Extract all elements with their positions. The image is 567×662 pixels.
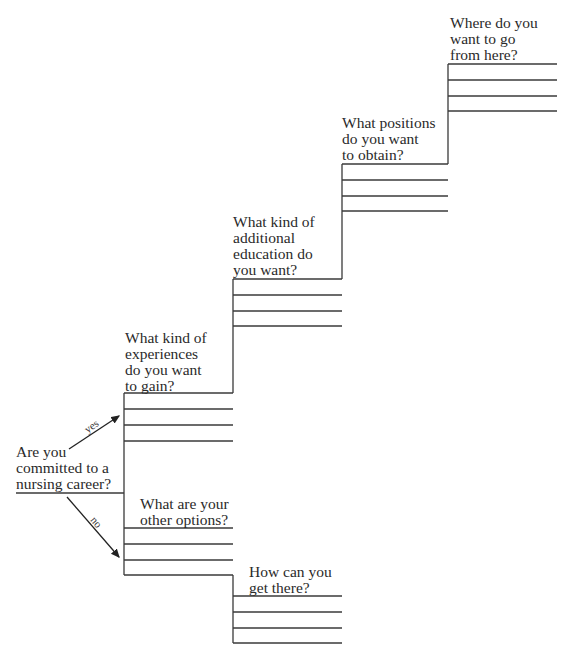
yes-step-3-question: What positions do you want to obtain? [342,115,435,163]
start-question: Are you committed to a nursing career? [16,444,111,492]
yes-step-4-question: Where do you want to go from here? [450,15,538,63]
yes-step-2-question: What kind of additional education do you… [233,214,315,278]
no-step-2-question: How can you get there? [249,564,332,596]
no-step-1-question: What are your other options? [140,496,229,528]
yes-step-1-question: What kind of experiences do you want to … [125,330,207,394]
